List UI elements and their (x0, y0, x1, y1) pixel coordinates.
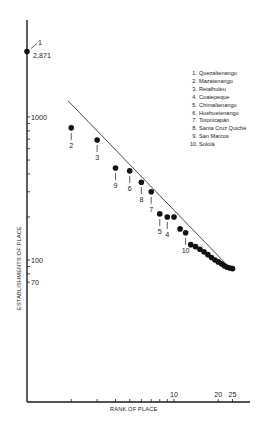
x-tick-label: 10 (170, 390, 178, 399)
point-label: 8 (139, 195, 143, 204)
data-point (183, 230, 189, 236)
data-point (127, 168, 133, 174)
data-point (94, 137, 100, 143)
legend-item: 1.Quezaltenango (190, 70, 246, 78)
y-tick-label: 1000 (31, 113, 47, 122)
legend-item: 6.Huehuetenango (190, 110, 246, 118)
data-point (177, 226, 183, 232)
point-label: 9 (114, 181, 118, 190)
x-tick-label: 20 (214, 390, 222, 399)
data-point (68, 125, 74, 131)
point-label: 10 (182, 246, 190, 255)
point-label: 1 (38, 38, 42, 47)
y-tick-label: 70 (31, 278, 39, 287)
x-tick-label: 25 (228, 390, 236, 399)
point-label: 3 (95, 153, 99, 162)
point-label: 2 (69, 141, 73, 150)
data-point (171, 214, 177, 220)
legend-item: 8.Santa Cruz Quiché (190, 125, 246, 133)
legend-item: 5.Chimaltenango (190, 102, 246, 110)
data-point (157, 211, 163, 217)
data-point (230, 266, 236, 272)
legend: 1.Quezaltenango 2.Mazatenango 3.Retalhul… (190, 70, 246, 149)
x-axis-label: RANK OF PLACE (110, 406, 157, 412)
legend-item: 4.Coatepeque (190, 94, 246, 102)
legend-item: 7.Totonicapán (190, 117, 246, 125)
legend-item: 3.Retalhuleu (190, 86, 246, 94)
legend-item: 10.Sololá (190, 141, 246, 149)
data-point (113, 165, 119, 171)
data-point (148, 189, 154, 195)
point-label: 4 (165, 230, 169, 239)
point-label: 5 (158, 227, 162, 236)
legend-item: 2.Mazatenango (190, 78, 246, 86)
point-label: 7 (149, 205, 153, 214)
point-value-label: 2,871 (33, 51, 51, 60)
y-tick-label: 100 (31, 256, 43, 265)
point-label: 6 (128, 184, 132, 193)
rank-size-chart: 10001007010202512,8712396875410 (0, 0, 266, 428)
legend-item: 9.San Marcos (190, 133, 246, 141)
data-point (139, 179, 145, 185)
point-leader (31, 44, 37, 49)
data-point (164, 214, 170, 220)
data-point (24, 49, 30, 55)
y-axis-label: ESTABLISHMENTS OF PLACE (16, 213, 22, 323)
